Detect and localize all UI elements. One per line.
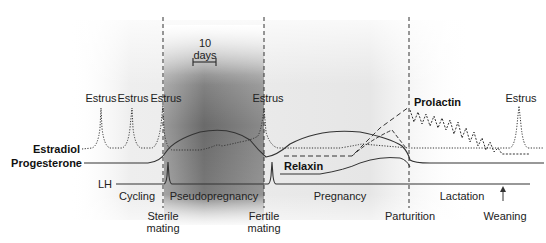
estrus-label-5: Estrus [505, 92, 536, 104]
sterile-mating-label-line1: Sterile [147, 210, 178, 222]
phase-pregnancy: Pregnancy [314, 190, 367, 202]
progesterone-label: Progesterone [11, 157, 82, 169]
phase-pseudopregnancy: Pseudopregnancy [170, 190, 259, 202]
phase-lactation: Lactation [440, 190, 485, 202]
parturition-label: Parturition [385, 210, 435, 222]
diagram-graphics [0, 0, 546, 243]
estrus-label-2: Estrus [117, 92, 148, 104]
phase-cycling: Cycling [119, 190, 155, 202]
lh-label: LH [98, 178, 112, 190]
estrus-label-1: Estrus [85, 92, 116, 104]
fertile-mating-label-line2: mating [247, 222, 280, 234]
estrus-label-4: Estrus [252, 92, 283, 104]
scale-unit: days [193, 49, 216, 61]
weaning-label: Weaning [483, 210, 526, 222]
estrus-label-3: Estrus [150, 92, 181, 104]
relaxin-label: Relaxin [284, 160, 323, 172]
fertile-mating-label-line1: Fertile [249, 210, 280, 222]
sterile-mating-label-line2: mating [146, 222, 179, 234]
scale-value: 10 [199, 37, 211, 49]
hormone-diagram: 10 days Estrus Estrus Estrus Estrus Estr… [0, 0, 546, 243]
prolactin-label: Prolactin [414, 96, 461, 108]
weaning-arrow [500, 186, 506, 201]
estradiol-label: Estradiol [33, 143, 80, 155]
